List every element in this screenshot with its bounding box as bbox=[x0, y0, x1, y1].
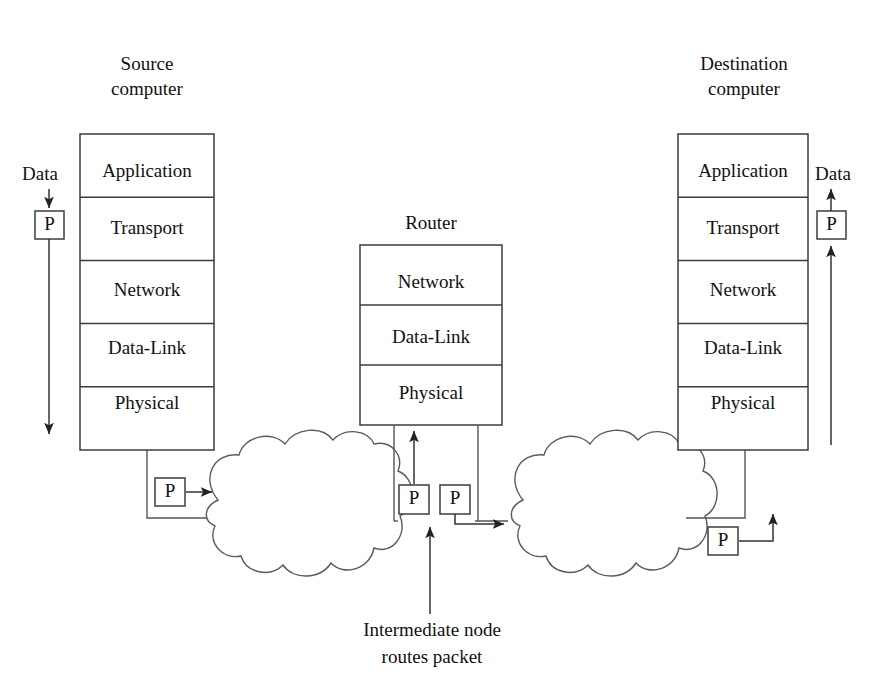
source-layer-network: Network bbox=[114, 279, 181, 300]
source-computer-group: Source computer Application Transport Ne… bbox=[80, 53, 214, 450]
source-computer-title-line1: Source bbox=[121, 53, 174, 74]
caption-line2: routes packet bbox=[382, 646, 483, 667]
destination-top-packet-label: P bbox=[826, 213, 837, 234]
destination-layer-data-link: Data-Link bbox=[704, 337, 783, 358]
destination-layer-application: Application bbox=[698, 160, 788, 181]
right-network-cloud bbox=[511, 430, 717, 576]
router-group: Router Network Data-Link Physical bbox=[360, 212, 502, 425]
router-title: Router bbox=[405, 212, 457, 233]
router-out-packet-label: P bbox=[450, 487, 461, 508]
source-to-left-cloud-link: P bbox=[147, 450, 215, 518]
router-layer-network: Network bbox=[398, 271, 465, 292]
destination-computer-title-line2: computer bbox=[708, 78, 780, 99]
destination-computer-title-line1: Destination bbox=[700, 53, 788, 74]
destination-layer-physical: Physical bbox=[711, 392, 775, 413]
source-top-packet-label: P bbox=[44, 213, 55, 234]
left-cloud-shape bbox=[206, 430, 412, 576]
source-bottom-packet-label: P bbox=[165, 480, 176, 501]
left-network-cloud bbox=[206, 430, 412, 576]
source-layer-data-link: Data-Link bbox=[108, 337, 187, 358]
destination-decapsulation-flow: P Data bbox=[815, 163, 851, 445]
router-layer-physical: Physical bbox=[399, 382, 463, 403]
router-layer-data-link: Data-Link bbox=[392, 326, 471, 347]
right-cloud-shape bbox=[511, 430, 717, 576]
router-in-packet-label: P bbox=[409, 487, 420, 508]
source-layer-physical: Physical bbox=[115, 392, 179, 413]
data-label-left: Data bbox=[22, 163, 58, 184]
destination-computer-group: Destination computer Application Transpo… bbox=[678, 53, 808, 450]
network-layering-diagram: Source computer Application Transport Ne… bbox=[0, 0, 873, 687]
destination-layer-network: Network bbox=[710, 279, 777, 300]
router-wiring: P P bbox=[394, 425, 508, 524]
diagram-canvas: Source computer Application Transport Ne… bbox=[0, 0, 873, 687]
destination-layer-transport: Transport bbox=[706, 217, 780, 238]
source-layer-transport: Transport bbox=[110, 217, 184, 238]
caption-line1: Intermediate node bbox=[363, 619, 501, 640]
data-label-right: Data bbox=[815, 163, 851, 184]
destination-bottom-packet-label: P bbox=[718, 529, 729, 550]
router-packet-into-right-cloud-arrow bbox=[455, 514, 504, 524]
source-encapsulation-flow: Data P bbox=[22, 163, 64, 434]
source-computer-title-line2: computer bbox=[111, 78, 183, 99]
source-layer-application: Application bbox=[102, 160, 192, 181]
